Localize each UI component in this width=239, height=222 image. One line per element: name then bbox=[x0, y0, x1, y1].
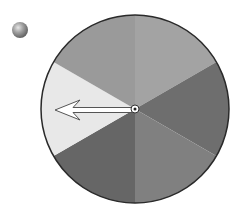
spinner-diagram bbox=[0, 0, 239, 222]
pivot-dot-icon bbox=[134, 108, 137, 111]
bullet-sphere-icon bbox=[12, 22, 28, 38]
